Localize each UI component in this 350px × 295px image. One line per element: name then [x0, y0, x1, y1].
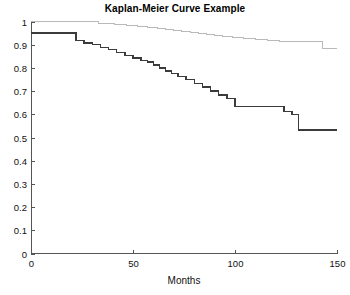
y-tick-label: 1 [22, 17, 27, 28]
chart-figure: Kaplan-Meier Curve Example 00.10.20.30.4… [0, 0, 350, 295]
y-tick-label: 0.1 [14, 225, 27, 236]
y-tick-label: 0.9 [14, 40, 27, 51]
km-curve-upper-curve [31, 22, 337, 49]
y-tick-label: 0.5 [14, 133, 27, 144]
y-tick-label: 0.6 [14, 109, 27, 120]
axes-group [31, 22, 337, 254]
x-axis-title: Months [168, 275, 201, 286]
y-axis-ticks: 00.10.20.30.40.50.60.70.80.91 [14, 17, 35, 260]
y-tick-label: 0.2 [14, 202, 27, 213]
x-axis-ticks: 050100150 [29, 250, 346, 270]
y-tick-label: 0.7 [14, 86, 27, 97]
y-tick-label: 0.3 [14, 179, 27, 190]
y-tick-label: 0.8 [14, 63, 27, 74]
kaplan-meier-plot: 00.10.20.30.40.50.60.70.80.91 050100150 … [0, 0, 350, 295]
x-tick-label: 100 [228, 258, 244, 269]
km-curve-lower-curve [31, 33, 337, 130]
y-tick-label: 0 [22, 249, 27, 260]
x-tick-label: 0 [29, 258, 34, 269]
y-tick-label: 0.4 [14, 156, 27, 167]
x-tick-label: 50 [128, 258, 139, 269]
series-group [31, 22, 337, 130]
x-tick-label: 150 [330, 258, 346, 269]
